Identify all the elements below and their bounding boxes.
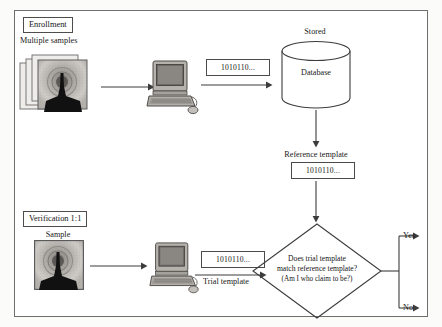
reference-template-label: Reference template (261, 150, 371, 159)
arrow-sample-to-computer (90, 260, 148, 272)
diagram-frame: Enrollment Multiple samples (14, 10, 428, 317)
decision-question-line2: match reference template? (252, 264, 382, 274)
sample-label: Sample (29, 230, 87, 239)
outcome-no-label: No (403, 303, 413, 312)
fingerprint-icon-sample (34, 240, 84, 290)
reference-template-bits: 1010110... (291, 162, 355, 179)
multiple-samples-label: Multiple samples (20, 36, 77, 45)
decision-question-line1: Does trial template (252, 254, 382, 264)
arrow-reference-to-decision (310, 181, 322, 223)
enrollment-template-bits: 1010110... (206, 59, 270, 76)
decision-question: Does trial template match reference temp… (252, 254, 382, 284)
fingerprint-stack-icon (19, 53, 97, 119)
outcome-yes-label: Yes (403, 231, 415, 240)
stored-label: Stored (280, 27, 350, 36)
enrollment-tag: Enrollment (23, 17, 73, 33)
arrow-computer-to-database (201, 79, 273, 91)
desktop-computer-icon-enrollment (145, 59, 203, 117)
trial-template-label: Trial template (191, 277, 261, 286)
arrow-database-to-reference (310, 110, 322, 148)
database-label: Database (278, 68, 354, 77)
verification-tag: Verification 1:1 (23, 211, 87, 227)
decision-question-line3: (Am I who claim to be?) (252, 275, 382, 285)
diagram-canvas: Enrollment Multiple samples (0, 0, 442, 327)
